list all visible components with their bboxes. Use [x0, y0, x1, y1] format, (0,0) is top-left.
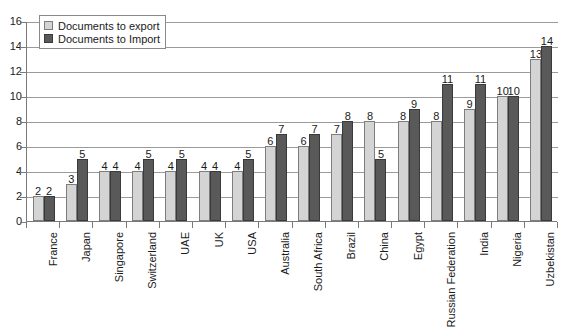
x-axis-label: Singapore [114, 232, 125, 282]
bar-export: 8 [431, 121, 442, 221]
x-tick-9 [325, 222, 326, 228]
bar-group: 811 [425, 21, 458, 221]
bar-import: 2 [44, 196, 55, 221]
x-tick-8 [292, 222, 293, 228]
y-tick-label-14: 14 [0, 41, 22, 52]
x-tick-14 [491, 222, 492, 228]
x-tick-4 [159, 222, 160, 228]
bar-value-label: 6 [267, 135, 273, 147]
y-tick-label-16: 16 [0, 16, 22, 27]
x-axis-label: Egypt [413, 232, 424, 260]
bar-value-label: 5 [79, 148, 85, 160]
bar-export: 9 [464, 109, 475, 222]
bar-import: 14 [541, 46, 552, 221]
bar-value-label: 8 [400, 110, 406, 122]
x-axis-label: USA [247, 232, 258, 255]
bar-value-label: 11 [442, 73, 453, 85]
bar-group: 67 [259, 21, 292, 221]
bar-import: 8 [342, 121, 353, 221]
plot-area: 22354445454445676778858981191110101314 [26, 22, 557, 222]
legend-label: Documents to export [58, 20, 160, 32]
bar-export: 10 [497, 96, 508, 221]
bar-group: 911 [458, 21, 491, 221]
bar-value-label: 2 [35, 185, 41, 197]
x-axis-label: China [379, 232, 390, 261]
x-axis-label: UAE [180, 232, 191, 255]
bar-export: 7 [331, 134, 342, 222]
legend-item: Documents to export [44, 19, 160, 32]
x-axis-label: Switzerland [147, 232, 158, 289]
bar-group: 67 [293, 21, 326, 221]
x-tick-0 [26, 222, 27, 228]
bar-value-label: 5 [245, 148, 251, 160]
x-tick-6 [225, 222, 226, 228]
bar-import: 11 [475, 84, 486, 222]
x-axis-label: Australia [280, 232, 291, 275]
x-tick-11 [391, 222, 392, 228]
bar-group: 78 [326, 21, 359, 221]
x-tick-3 [126, 222, 127, 228]
x-tick-15 [524, 222, 525, 228]
bar-import: 7 [276, 134, 287, 222]
bar-value-label: 14 [541, 35, 553, 47]
y-tick-label-12: 12 [0, 66, 22, 77]
bar-import: 11 [442, 84, 453, 222]
bar-value-label: 4 [101, 160, 107, 172]
bar-group: 22 [27, 21, 60, 221]
bar-value-label: 4 [212, 160, 218, 172]
bar-export: 6 [298, 146, 309, 221]
bar-value-label: 10 [508, 85, 520, 97]
bar-import: 5 [375, 159, 386, 222]
bar-export: 4 [132, 171, 143, 221]
bar-value-label: 8 [345, 110, 351, 122]
x-tick-1 [59, 222, 60, 228]
legend-swatch-import [44, 34, 53, 43]
bar-import: 7 [309, 134, 320, 222]
bar-value-label: 9 [411, 98, 417, 110]
bar-value-label: 7 [278, 123, 284, 135]
x-tick-7 [258, 222, 259, 228]
bar-value-label: 4 [135, 160, 141, 172]
bar-value-label: 13 [530, 48, 542, 60]
bar-value-label: 3 [68, 173, 74, 185]
bar-value-label: 5 [146, 148, 152, 160]
bar-group: 45 [226, 21, 259, 221]
bar-group: 44 [93, 21, 126, 221]
bar-group: 44 [193, 21, 226, 221]
bar-export: 4 [199, 171, 210, 221]
bar-value-label: 7 [334, 123, 340, 135]
bar-group: 85 [359, 21, 392, 221]
x-axis-label: Russian Federation [446, 232, 457, 327]
bar-import: 10 [508, 96, 519, 221]
bar-group: 45 [160, 21, 193, 221]
bar-value-label: 11 [475, 73, 486, 85]
x-axis-label: France [48, 232, 59, 266]
bar-import: 5 [143, 159, 154, 222]
bar-export: 13 [530, 59, 541, 222]
bar-export: 4 [165, 171, 176, 221]
bar-export: 3 [66, 184, 77, 222]
bar-export: 8 [398, 121, 409, 221]
bar-group: 35 [60, 21, 93, 221]
bar-value-label: 4 [168, 160, 174, 172]
x-axis-label: Nigeria [512, 232, 523, 267]
x-axis-label: UK [214, 232, 225, 247]
bar-value-label: 2 [46, 185, 52, 197]
bar-value-label: 7 [312, 123, 318, 135]
bar-export: 8 [364, 121, 375, 221]
y-tick-label-4: 4 [0, 166, 22, 177]
bar-import: 5 [77, 159, 88, 222]
y-tick-label-2: 2 [0, 191, 22, 202]
x-axis-label: Brazil [346, 232, 357, 260]
x-axis-label: India [479, 232, 490, 256]
x-axis-label: South Africa [313, 232, 324, 291]
x-tick-16 [557, 222, 558, 228]
bar-export: 4 [99, 171, 110, 221]
bar-value-label: 6 [301, 135, 307, 147]
legend-swatch-export [44, 21, 53, 30]
bar-group: 1314 [525, 21, 558, 221]
bar-value-label: 8 [433, 110, 439, 122]
bar-value-label: 4 [201, 160, 207, 172]
bar-value-label: 8 [367, 110, 373, 122]
legend-label: Documents to Import [58, 33, 160, 45]
